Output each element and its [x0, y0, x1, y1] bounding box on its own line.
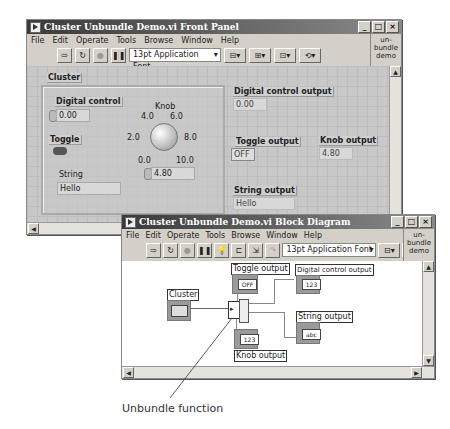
- annotation-pointer-line: [0, 0, 450, 429]
- unbundle-function-annotation: Unbundle function: [122, 402, 223, 415]
